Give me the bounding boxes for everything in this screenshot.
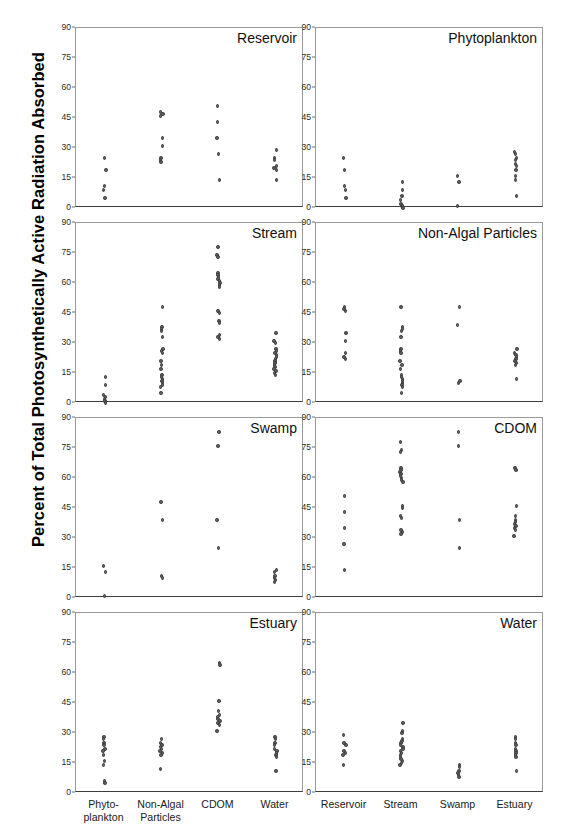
y-tick-label: 30 (61, 142, 71, 152)
y-tick-label: 60 (301, 472, 311, 482)
y-tick-label: 90 (61, 412, 71, 422)
y-tick-label: 0 (66, 787, 71, 797)
data-point (400, 391, 403, 394)
data-point (161, 144, 164, 147)
x-tick-label: Estuary (497, 798, 533, 811)
y-tick-label: 60 (61, 82, 71, 92)
y-tick-mark (72, 87, 75, 88)
y-tick-label: 45 (61, 112, 71, 122)
y-tick-mark (72, 117, 75, 118)
y-tick-label: 30 (61, 337, 71, 347)
y-tick-label: 90 (301, 412, 311, 422)
data-point (161, 335, 164, 338)
y-tick-mark (72, 537, 75, 538)
y-tick-mark (72, 342, 75, 343)
y-tick-mark (72, 147, 75, 148)
y-tick-label: 75 (301, 247, 311, 257)
y-tick-label: 0 (306, 592, 311, 602)
y-tick-label: 75 (301, 52, 311, 62)
data-point (160, 737, 163, 740)
data-point (514, 158, 517, 161)
data-point (104, 375, 107, 378)
data-point (401, 480, 404, 483)
panel-title: Phytoplankton (448, 30, 537, 46)
data-point (161, 576, 164, 579)
data-point (159, 114, 162, 117)
y-tick-mark (312, 672, 315, 673)
y-tick-label: 30 (61, 532, 71, 542)
data-point (102, 737, 105, 740)
y-tick-mark (312, 207, 315, 208)
data-point (341, 753, 344, 756)
data-point (514, 743, 517, 746)
data-point (344, 309, 347, 312)
y-tick-mark (312, 642, 315, 643)
data-point (218, 663, 221, 666)
y-tick-label: 0 (66, 202, 71, 212)
y-tick-mark (312, 477, 315, 478)
y-tick-mark (72, 597, 75, 598)
y-tick-mark (72, 417, 75, 418)
data-point (400, 516, 403, 519)
data-point (342, 156, 345, 159)
y-tick-mark (312, 177, 315, 178)
data-point (401, 385, 404, 388)
y-tick-mark (312, 567, 315, 568)
data-point (218, 321, 221, 324)
y-tick-label: 60 (61, 667, 71, 677)
figure-root: Percent of Total Photosynthetically Acti… (0, 0, 565, 836)
y-tick-mark (72, 507, 75, 508)
data-point (217, 699, 220, 702)
y-tick-label: 15 (61, 757, 71, 767)
data-point (102, 564, 105, 567)
y-tick-mark (72, 477, 75, 478)
data-point (273, 158, 276, 161)
plot-area (315, 612, 543, 792)
data-point (218, 337, 221, 340)
panel-water: Water0153045607590ReservoirStreamSwampEs… (315, 612, 543, 792)
y-tick-mark (312, 402, 315, 403)
y-tick-mark (312, 27, 315, 28)
x-tick-label: Stream (383, 798, 417, 811)
data-point (342, 763, 345, 766)
panel-title: Stream (252, 225, 297, 241)
data-point (512, 534, 515, 537)
data-point (343, 526, 346, 529)
panel-non-algal-particles: Non-Algal Particles0153045607590 (315, 222, 543, 402)
data-point (342, 542, 345, 545)
data-point (401, 180, 404, 183)
y-tick-mark (312, 702, 315, 703)
y-tick-mark (72, 672, 75, 673)
data-point (401, 506, 404, 509)
data-point (159, 385, 162, 388)
y-tick-label: 90 (301, 217, 311, 227)
y-tick-mark (72, 792, 75, 793)
data-point (104, 401, 107, 404)
y-tick-label: 0 (66, 592, 71, 602)
panel-grid: Reservoir0153045607590Phytoplankton01530… (0, 0, 565, 836)
y-tick-mark (312, 282, 315, 283)
data-point (344, 351, 347, 354)
y-tick-label: 45 (301, 502, 311, 512)
data-point (457, 775, 460, 778)
y-tick-mark (312, 57, 315, 58)
plot-area (75, 417, 303, 597)
data-point (102, 743, 105, 746)
y-tick-label: 0 (306, 202, 311, 212)
y-tick-mark (72, 447, 75, 448)
y-tick-mark (312, 312, 315, 313)
data-point (159, 160, 162, 163)
y-tick-label: 90 (61, 217, 71, 227)
data-point (514, 528, 517, 531)
data-point (218, 311, 221, 314)
y-tick-mark (72, 57, 75, 58)
data-point (103, 196, 106, 199)
data-point (399, 351, 402, 354)
data-point (102, 753, 105, 756)
data-point (343, 568, 346, 571)
y-tick-label: 45 (61, 697, 71, 707)
y-tick-label: 60 (301, 277, 311, 287)
y-tick-mark (72, 612, 75, 613)
y-tick-mark (72, 762, 75, 763)
y-tick-label: 75 (61, 637, 71, 647)
